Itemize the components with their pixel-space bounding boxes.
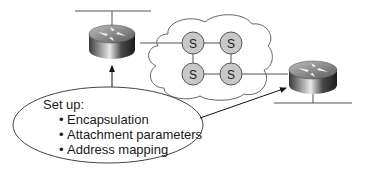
switch-label: S <box>227 68 235 82</box>
switch-node: S <box>220 63 242 85</box>
callout-heading: Set up: <box>43 97 84 112</box>
switch-node: S <box>220 32 242 54</box>
network-diagram: S S S S Set u <box>0 0 366 175</box>
switch-label: S <box>189 68 197 82</box>
bullet-icon: • <box>59 127 64 142</box>
switch-label: S <box>227 37 235 51</box>
callout-item-attachment-parameters: Attachment parameters <box>67 127 203 142</box>
switch-node: S <box>182 32 204 54</box>
bullet-icon: • <box>59 142 64 157</box>
router-icon <box>289 61 337 94</box>
switch-node: S <box>182 63 204 85</box>
callout-item-address-mapping: Address mapping <box>67 142 168 157</box>
network-cloud <box>149 15 273 101</box>
switch-label: S <box>189 37 197 51</box>
callout-item-encapsulation: Encapsulation <box>67 112 149 127</box>
bullet-icon: • <box>59 112 64 127</box>
router-icon <box>89 25 135 59</box>
